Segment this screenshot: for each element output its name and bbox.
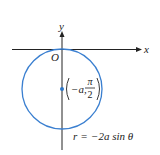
coord-two: 2 [88,89,93,100]
origin-label: O [51,51,59,63]
polar-diagram: y x O −a, π 2 r = −2a sin θ [0,0,160,155]
x-axis-arrow-icon [136,47,142,52]
equation-lhs: r [73,130,78,142]
right-paren [97,78,100,100]
equation-rhs: −2a sin θ [91,130,134,142]
coord-pi: π [87,76,93,87]
center-point-label: −a, π 2 [67,76,100,100]
y-axis-label: y [58,20,64,32]
equation-eq: = [81,130,87,142]
center-point [60,87,64,91]
left-paren [67,78,70,100]
x-axis-label: x [143,43,149,55]
equation-label: r = −2a sin θ [73,130,134,142]
coord-r-value: −a, [71,83,87,95]
